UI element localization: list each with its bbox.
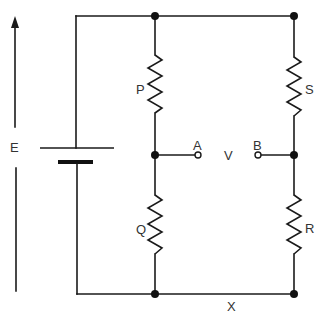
voltmeter-label: V	[224, 148, 233, 163]
node-mid-left	[151, 151, 159, 159]
node-mid-right	[290, 151, 298, 159]
bottom-wire-label: X	[227, 299, 236, 314]
resistor-r	[287, 155, 301, 294]
terminal-b-label: B	[253, 138, 262, 153]
resistor-r-label: R	[305, 221, 314, 236]
node-top-left	[151, 12, 159, 20]
resistor-s	[287, 16, 301, 155]
terminal-a-label: A	[193, 138, 202, 153]
resistor-q	[148, 155, 162, 294]
resistor-p	[148, 16, 162, 155]
wheatstone-bridge-diagram: E P Q S R A B V	[0, 0, 323, 317]
resistor-q-label: Q	[136, 222, 146, 237]
battery-symbol	[40, 16, 114, 294]
node-top-right	[290, 12, 298, 20]
node-bottom-right	[290, 290, 298, 298]
node-bottom-left	[151, 290, 159, 298]
resistor-p-label: P	[136, 82, 145, 97]
resistor-s-label: S	[305, 82, 314, 97]
emf-label: E	[10, 140, 19, 155]
